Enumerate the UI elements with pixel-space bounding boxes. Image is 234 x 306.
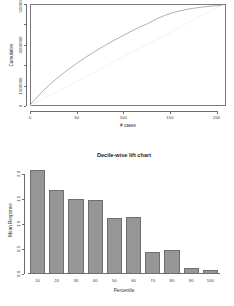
lift-bar-10 — [30, 170, 45, 274]
cumulative-y-ticklabel-2: 3000000 — [18, 36, 23, 53]
cumulative-x-tick-0 — [30, 111, 31, 114]
lift-bars-plot-area — [28, 166, 220, 274]
cumulative-y-tick-1 — [24, 86, 27, 87]
cumulative-x-tick-4 — [217, 111, 218, 114]
cumulative-x-ticklabel-1: 50 — [74, 115, 79, 120]
cumulative-y-tick-5 — [24, 4, 27, 5]
cumulative-y-tick-2 — [24, 65, 27, 66]
lift-y-axis-line — [24, 174, 25, 274]
lift-y-tick-2 — [22, 224, 25, 225]
lift-y-ticklabel-4: 2.0 — [16, 170, 21, 176]
lift-x-ticklabel-100: 100 — [207, 278, 214, 283]
cumulative-y-axis-line — [26, 4, 27, 106]
lift-y-tick-0 — [22, 274, 25, 275]
cumulative-y-ticklabel-1: 1000000 — [18, 77, 23, 94]
cumulative-curve-layer — [30, 4, 226, 106]
lift-bar-20 — [49, 190, 64, 274]
cumulative-x-tick-1 — [77, 111, 78, 114]
lift-y-tick-4 — [22, 174, 25, 175]
cumulative-x-ticklabel-3: 150 — [166, 115, 173, 120]
lift-y-tick-1 — [22, 249, 25, 250]
cumulative-y-ticklabel-0: 0 — [18, 105, 23, 107]
decile-wise-lift-chart: Decile-wise lift chart 0.00.51.01.52.0 1… — [0, 148, 234, 306]
cumulative-x-ticklabel-0: 0 — [29, 115, 31, 120]
lift-x-ticklabel-30: 30 — [74, 278, 79, 283]
cumulative-x-axis-title: # cases — [120, 123, 136, 128]
lift-bar-90 — [184, 268, 199, 274]
lift-bar-60 — [126, 217, 141, 274]
cumulative-x-ticklabel-2: 100 — [120, 115, 127, 120]
lift-y-axis-title: Mean Response — [8, 203, 13, 236]
lift-bar-100 — [203, 270, 218, 274]
lift-x-ticklabel-90: 90 — [189, 278, 194, 283]
lift-y-ticklabel-1: 0.5 — [16, 246, 21, 252]
cumulative-y-tick-0 — [24, 106, 27, 107]
lift-x-ticklabel-50: 50 — [112, 278, 117, 283]
cumulative-x-tick-2 — [123, 111, 124, 114]
lift-y-ticklabel-0: 0.0 — [16, 271, 21, 277]
cumulative-x-tick-3 — [170, 111, 171, 114]
lift-bar-40 — [88, 200, 103, 274]
lift-x-axis-title: Percentile — [114, 288, 134, 293]
cumulative-lift-chart: 0100000030000005000000 050100150200 Cumu… — [0, 0, 234, 148]
lift-bar-50 — [107, 218, 122, 274]
cumulative-curve-svg — [30, 4, 226, 106]
lift-bar-70 — [145, 252, 160, 274]
lift-x-ticklabel-10: 10 — [35, 278, 40, 283]
lift-bar-80 — [164, 250, 179, 274]
lift-bar-30 — [68, 199, 83, 274]
lift-x-ticklabel-20: 20 — [54, 278, 59, 283]
cumulative-y-tick-3 — [24, 45, 27, 46]
lift-x-ticklabel-80: 80 — [170, 278, 175, 283]
baseline-diagonal-line — [30, 5, 221, 106]
cumulative-x-ticklabel-4: 200 — [213, 115, 220, 120]
cumulative-y-ticklabel-3: 5000000 — [18, 0, 23, 13]
lift-chart-title: Decile-wise lift chart — [97, 152, 151, 158]
lift-y-ticklabel-3: 1.5 — [16, 196, 21, 202]
cumulative-y-tick-4 — [24, 24, 27, 25]
cumulative-y-axis-title: Cumulative — [9, 44, 14, 67]
lift-charts-page: 0100000030000005000000 050100150200 Cumu… — [0, 0, 234, 306]
lift-y-ticklabel-2: 1.0 — [16, 221, 21, 227]
lift-x-ticklabel-60: 60 — [131, 278, 136, 283]
lift-x-ticklabel-40: 40 — [93, 278, 98, 283]
lift-x-ticklabel-70: 70 — [150, 278, 155, 283]
lift-y-tick-3 — [22, 199, 25, 200]
